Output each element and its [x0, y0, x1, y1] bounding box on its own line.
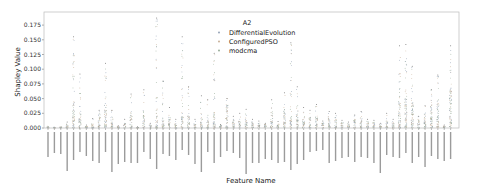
data-point — [226, 107, 227, 108]
data-point — [157, 26, 158, 27]
x-tick-label — [252, 132, 253, 163]
data-point — [411, 126, 412, 127]
data-point — [398, 111, 399, 112]
data-point — [157, 108, 158, 109]
data-point — [80, 114, 81, 115]
x-tick-label — [130, 132, 131, 163]
data-point — [79, 113, 80, 114]
data-point-max — [444, 125, 445, 126]
data-point — [437, 106, 438, 107]
data-point — [214, 98, 215, 99]
data-point — [119, 127, 120, 128]
data-point — [207, 115, 208, 116]
data-point — [189, 118, 190, 119]
data-point — [183, 122, 184, 123]
data-point — [450, 120, 451, 121]
data-point — [124, 124, 125, 125]
data-point — [259, 125, 260, 126]
data-point — [162, 121, 163, 122]
data-point — [405, 50, 406, 51]
data-point — [265, 124, 266, 125]
data-point — [366, 124, 367, 125]
legend-label-configuredpso: ConfiguredPSO — [229, 38, 278, 46]
data-point — [175, 123, 176, 124]
data-point — [400, 121, 401, 122]
data-point — [214, 118, 215, 119]
data-point — [289, 120, 290, 121]
data-point — [105, 72, 106, 73]
data-point — [291, 45, 292, 46]
data-point — [104, 121, 105, 122]
data-point — [399, 60, 400, 61]
data-point — [404, 102, 405, 103]
legend-label-modcma: modcma — [229, 47, 257, 55]
data-point — [142, 123, 143, 124]
data-point — [290, 117, 291, 118]
x-tick-label — [220, 132, 221, 157]
data-point — [194, 126, 195, 127]
data-point — [424, 126, 425, 127]
data-point — [131, 122, 132, 123]
data-point — [200, 126, 201, 127]
data-point-max — [131, 93, 132, 94]
data-point — [438, 110, 439, 111]
data-point — [245, 119, 246, 120]
data-point — [214, 117, 215, 118]
data-point — [272, 116, 273, 117]
data-point — [411, 100, 412, 101]
data-point — [430, 118, 431, 119]
data-point — [169, 125, 170, 126]
data-point — [175, 123, 176, 124]
data-point — [405, 114, 406, 115]
data-point — [99, 120, 100, 121]
data-point — [399, 102, 400, 103]
data-point — [240, 122, 241, 123]
legend: A2 DifferentialEvolution ConfiguredPSO m… — [218, 19, 295, 55]
data-point — [451, 123, 452, 124]
data-point — [106, 107, 107, 108]
data-point — [405, 106, 406, 107]
data-point — [399, 112, 400, 113]
data-point — [104, 123, 105, 124]
data-point — [315, 111, 316, 112]
data-point — [437, 119, 438, 120]
data-point — [157, 122, 158, 123]
data-point — [406, 72, 407, 73]
data-point-max — [233, 116, 234, 117]
x-tick-label — [111, 132, 112, 172]
data-point — [413, 124, 414, 125]
data-point — [405, 68, 406, 69]
data-point — [73, 63, 74, 64]
data-point — [411, 114, 412, 115]
data-point — [411, 112, 412, 113]
data-point — [347, 125, 348, 126]
data-point — [443, 126, 444, 127]
data-point — [188, 119, 189, 120]
data-point — [450, 119, 451, 120]
data-point — [310, 117, 311, 118]
data-point — [182, 71, 183, 72]
data-point — [437, 76, 438, 77]
data-point — [214, 54, 215, 55]
data-point — [405, 105, 406, 106]
data-point — [404, 105, 405, 106]
x-tick-label — [405, 132, 406, 153]
data-point — [393, 122, 394, 123]
data-point — [374, 124, 375, 125]
data-point — [176, 125, 177, 126]
data-point — [213, 114, 214, 115]
x-tick-label — [316, 132, 317, 151]
data-point — [181, 119, 182, 120]
legend-marker-configuredpso — [218, 41, 220, 43]
data-point — [284, 111, 285, 112]
data-point — [91, 126, 92, 127]
data-point — [399, 114, 400, 115]
data-point — [156, 117, 157, 118]
x-tick-label — [367, 132, 368, 158]
data-point — [214, 114, 215, 115]
data-point — [296, 114, 297, 115]
data-point — [398, 74, 399, 75]
data-point — [298, 111, 299, 112]
data-point — [271, 112, 272, 113]
data-point — [104, 110, 105, 111]
